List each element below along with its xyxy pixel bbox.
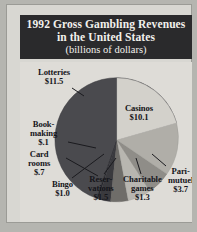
title-subtitle: (billions of dollars) [65,44,146,55]
slice-label-charitable-value: $1.3 [123,193,162,202]
title-line-1: 1992 Gross Gambling Revenues [27,18,186,30]
slice-label-bingo: Bingo $1.0 [52,180,73,198]
slice-label-charitable: Charitable games $1.3 [123,175,162,201]
figure-frame: 1992 Gross Gambling Revenues in the Unit… [7,5,191,222]
slice-label-cardrooms-value: $.7 [28,168,50,177]
slice-label-casinos-value: $10.1 [125,113,153,122]
slice-label-lotteries-value: $11.5 [38,77,70,86]
slice-label-parimutuel: Pari- mutuel $3.7 [168,167,192,193]
chart-title-block: 1992 Gross Gambling Revenues in the Unit… [20,15,192,59]
slice-label-bookmaking: Book- making $.1 [30,120,57,146]
slice-label-cardrooms: Card rooms $.7 [28,150,50,176]
slice-label-lotteries: Lotteries $11.5 [38,68,70,86]
slice-label-reservations: Reser- vations $1.5 [88,175,114,201]
chart-figure: 1992 Gross Gambling Revenues in the Unit… [0,0,197,232]
slice-label-reservations-value: $1.5 [88,193,114,202]
pie-plot-area: Lotteries $11.5 Casinos $10.1 Book- maki… [20,62,192,222]
slice-label-parimutuel-value: $3.7 [168,185,192,194]
slice-label-bingo-value: $1.0 [52,189,73,198]
slice-label-casinos: Casinos $10.1 [125,104,153,122]
title-line-2: in the United States [57,31,155,43]
slice-label-bookmaking-value: $.1 [30,138,57,147]
